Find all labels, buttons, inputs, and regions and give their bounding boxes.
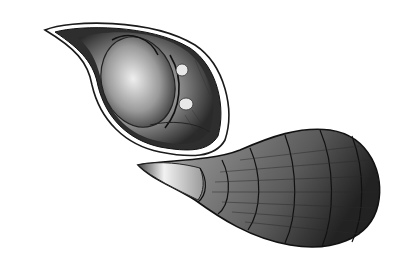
nodule-upper (176, 64, 188, 76)
nodule-lower (179, 98, 193, 110)
illustration (0, 0, 408, 270)
shell-exterior-tip (138, 163, 203, 200)
shell-interior-view (45, 23, 229, 155)
